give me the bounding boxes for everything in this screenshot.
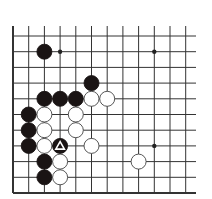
white-stone-icon [84, 91, 99, 106]
black-stone-icon [37, 44, 52, 59]
black-stone-icon [37, 170, 52, 185]
black-stone-icon [37, 154, 52, 169]
white-stone[interactable] [37, 138, 52, 153]
white-stone[interactable] [84, 91, 99, 106]
black-stone-icon [53, 91, 68, 106]
white-stone-icon [68, 107, 83, 122]
white-stone[interactable] [37, 107, 52, 122]
white-stone-icon [37, 107, 52, 122]
white-stone-icon [100, 91, 115, 106]
white-stone[interactable] [37, 123, 52, 138]
black-stone-icon [84, 76, 99, 91]
black-stone[interactable] [53, 138, 68, 153]
black-stone[interactable] [84, 76, 99, 91]
star-point-icon [58, 50, 62, 54]
white-stone[interactable] [84, 138, 99, 153]
black-stone-icon [21, 107, 36, 122]
black-stone-icon [68, 91, 83, 106]
white-stone-icon [37, 123, 52, 138]
black-stone[interactable] [53, 91, 68, 106]
black-stone[interactable] [21, 107, 36, 122]
black-stone[interactable] [37, 170, 52, 185]
white-stone-icon [37, 138, 52, 153]
star-point-icon [152, 50, 156, 54]
white-stone[interactable] [53, 170, 68, 185]
black-stone-icon [21, 138, 36, 153]
black-stone-icon [21, 123, 36, 138]
white-stone[interactable] [68, 107, 83, 122]
white-stone-icon [68, 123, 83, 138]
white-stone[interactable] [131, 154, 146, 169]
go-board [0, 0, 212, 199]
black-stone[interactable] [68, 91, 83, 106]
black-stone[interactable] [21, 138, 36, 153]
white-stone[interactable] [68, 123, 83, 138]
black-stone-icon [37, 91, 52, 106]
star-point-icon [152, 144, 156, 148]
black-stone[interactable] [21, 123, 36, 138]
white-stone-icon [131, 154, 146, 169]
black-stone[interactable] [37, 44, 52, 59]
white-stone[interactable] [100, 91, 115, 106]
white-stone-icon [53, 154, 68, 169]
black-stone[interactable] [37, 154, 52, 169]
white-stone-icon [84, 138, 99, 153]
white-stone[interactable] [53, 154, 68, 169]
white-stone-icon [53, 170, 68, 185]
black-stone[interactable] [37, 91, 52, 106]
